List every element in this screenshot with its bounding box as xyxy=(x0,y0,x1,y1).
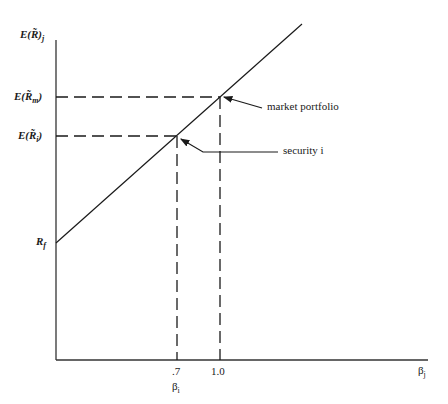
y-tick-security: E(R̃i) xyxy=(18,129,42,144)
y-axis-label: E(R̃)j xyxy=(20,28,44,43)
x-tick-market: 1.0 xyxy=(211,365,225,377)
diagram-canvas xyxy=(0,0,448,404)
x-tick-security: .7 xyxy=(172,365,180,377)
y-tick-rf: Rf xyxy=(36,235,46,250)
security-i-label: security i xyxy=(283,144,324,156)
market-portfolio-arrow xyxy=(224,97,262,108)
x-tick-beta-i: βi xyxy=(172,380,180,395)
x-axis-label: βj xyxy=(418,364,426,379)
security-market-line xyxy=(56,24,302,243)
y-tick-market: E(R̃m) xyxy=(14,90,42,105)
security-i-arrow xyxy=(181,139,278,152)
market-portfolio-label: market portfolio xyxy=(267,100,339,112)
